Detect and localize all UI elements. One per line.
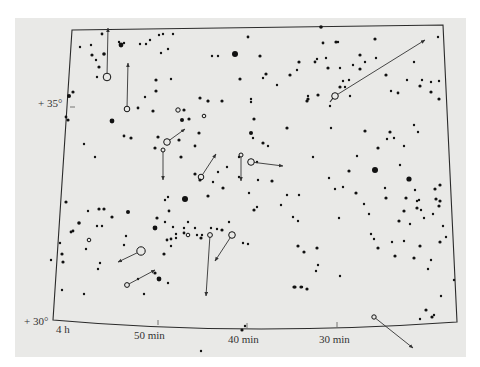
star-dot (99, 262, 101, 264)
star-dot (315, 270, 317, 272)
star-dot (193, 172, 196, 175)
star-dot (96, 225, 98, 227)
star-dot (276, 84, 278, 86)
star-dot (248, 192, 250, 194)
star-dot (83, 143, 85, 145)
star-dot (101, 225, 103, 227)
open-star-circle (372, 315, 376, 319)
star-dot (59, 242, 61, 244)
star-dot (438, 240, 441, 243)
star-dot (267, 145, 269, 147)
star-dot (373, 238, 375, 240)
open-star-circle (202, 114, 206, 118)
y-tick-label-30deg: + 30° (24, 315, 48, 327)
open-star-circle (164, 139, 171, 146)
star-dot (212, 181, 214, 183)
star-dot (453, 279, 455, 281)
star-dot (404, 196, 407, 199)
star-dot (330, 127, 332, 129)
star-dot (354, 191, 357, 194)
star-dot (418, 84, 421, 87)
star-chart: 4 h 50 min 40 min 30 min + 35° + 30° (0, 0, 480, 367)
star-dot (247, 243, 249, 245)
star-dot (182, 108, 185, 111)
star-dot (344, 86, 346, 88)
star-dot (118, 41, 120, 43)
star-dot (177, 138, 180, 141)
star-dot (221, 186, 224, 189)
star-dot (438, 199, 441, 202)
star-dot (286, 194, 288, 196)
star-dot (420, 209, 422, 211)
open-star-circle (87, 238, 91, 242)
star-dot (60, 252, 63, 255)
star-dot (226, 166, 228, 168)
star-dot (434, 197, 437, 200)
star-dot (97, 207, 100, 210)
star-dot (403, 240, 405, 242)
star-dot (328, 177, 330, 179)
open-star-circle (208, 233, 213, 238)
axis-ticks (70, 107, 337, 328)
proper-motion-arrow (170, 129, 185, 140)
star-dot (170, 78, 172, 80)
proper-motion-arrow (338, 40, 425, 94)
star-dot (179, 155, 182, 158)
star-dot (384, 196, 387, 199)
star-dot (200, 350, 202, 352)
star-dot (270, 179, 273, 182)
star-dot (247, 36, 250, 39)
star-dot (244, 325, 246, 327)
star-dot (429, 90, 432, 93)
star-dot (409, 223, 411, 225)
star-dot (364, 61, 366, 63)
star-dot (102, 207, 105, 210)
star-dot (143, 293, 145, 295)
star-dot (329, 105, 331, 107)
star-dot (162, 252, 165, 255)
star-dot (316, 58, 318, 60)
star-dot (302, 250, 305, 253)
star-dot (406, 79, 408, 81)
star-dot (339, 275, 341, 277)
star-dot (172, 226, 174, 228)
star-dot (153, 226, 158, 231)
star-dot (187, 117, 190, 120)
star-dot (342, 80, 344, 82)
star-dot (423, 217, 425, 219)
star-dot (433, 314, 435, 316)
star-dot (440, 295, 442, 297)
star-dot (157, 277, 162, 282)
star-dot (373, 37, 376, 40)
proper-motion-arrow (254, 162, 283, 166)
star-dot (375, 57, 377, 59)
star-dot (70, 231, 73, 234)
star-dot (427, 268, 429, 270)
open-star-circle (125, 283, 130, 288)
star-dot (166, 239, 169, 242)
proper-motion-arrow (203, 154, 216, 175)
star-dot (182, 196, 188, 202)
star-dot (97, 65, 100, 68)
star-dot (403, 145, 405, 147)
star-dot (211, 55, 213, 57)
star-dot (228, 221, 230, 223)
star-dot (338, 217, 340, 219)
star-dot (232, 51, 238, 57)
star-dot (249, 131, 253, 135)
x-tick-label-50min: 50 min (134, 329, 165, 341)
open-star-circle (124, 106, 130, 112)
star-dot (129, 136, 132, 139)
star-dot (305, 287, 308, 290)
star-dot (363, 203, 365, 205)
star-dot (297, 60, 300, 63)
star-dot (125, 235, 127, 237)
star-dot (390, 90, 392, 92)
star-dot (90, 53, 93, 56)
star-dot (307, 95, 309, 97)
star-dot (397, 92, 400, 95)
star-dot (172, 33, 174, 35)
star-dot (156, 135, 159, 138)
star-dot (372, 167, 378, 173)
star-dot (123, 42, 125, 44)
